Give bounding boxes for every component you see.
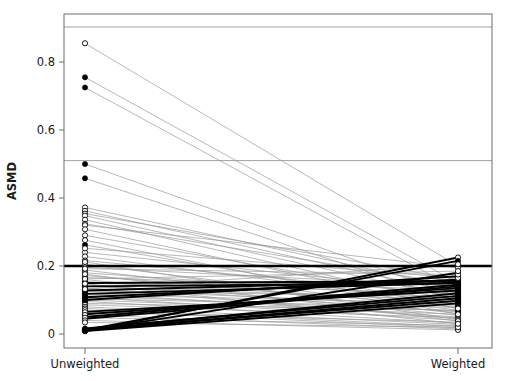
x-tick-label-unweighted: Unweighted	[51, 357, 120, 371]
marker-cov-68-unweighted	[82, 238, 87, 243]
marker-cov-70-unweighted	[82, 259, 87, 264]
marker-cov-04-unweighted	[82, 161, 87, 166]
marker-cov-02-unweighted	[82, 75, 87, 80]
marker-cov-65-unweighted	[82, 320, 87, 325]
marker-cov-67-unweighted	[82, 227, 87, 232]
y-tick-label-1: 0.2	[37, 259, 55, 273]
y-axis-title: ASMD	[5, 162, 19, 200]
x-axis: UnweightedWeighted	[51, 348, 486, 371]
marker-cov-73-weighted	[455, 269, 460, 274]
y-tick-label-3: 0.6	[37, 123, 55, 137]
marker-cov-74-weighted	[455, 321, 460, 326]
x-tick-label-weighted: Weighted	[431, 357, 485, 371]
y-tick-label-4: 0.8	[37, 55, 55, 69]
asmd-balance-plot: 00.20.40.60.8 UnweightedWeighted ASMD	[0, 0, 506, 381]
marker-cov-68-weighted	[455, 312, 460, 317]
marker-cov-71-unweighted	[82, 266, 87, 271]
marker-cov-75-weighted	[455, 262, 460, 267]
marker-cov-67-weighted	[455, 306, 460, 311]
y-tick-label-2: 0.4	[37, 191, 55, 205]
chart-canvas: 00.20.40.60.8 UnweightedWeighted ASMD	[0, 0, 506, 381]
y-axis: 00.20.40.60.8	[37, 55, 64, 341]
marker-cov-01-unweighted	[82, 41, 87, 46]
marker-cov-75-unweighted	[82, 287, 87, 292]
marker-cov-05-unweighted	[82, 176, 87, 181]
marker-cov-56-weighted	[455, 301, 460, 306]
marker-cov-03-unweighted	[82, 85, 87, 90]
marker-cov-69-unweighted	[82, 246, 87, 251]
marker-cov-56-unweighted	[82, 328, 87, 333]
marker-cov-74-unweighted	[82, 281, 87, 286]
y-tick-label-0: 0	[48, 327, 55, 341]
